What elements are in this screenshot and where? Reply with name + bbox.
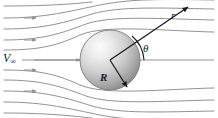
flow-past-sphere-figure: V∞ R θ r [0,0,218,118]
freestream-velocity-label: V∞ [3,52,16,66]
angle-theta-label: θ [143,43,148,54]
figure-canvas [0,0,218,118]
freestream-velocity-subscript: ∞ [10,57,16,66]
radial-coordinate-label: r [171,10,175,21]
streamline-8 [4,91,214,112]
streamline-9 [4,102,214,118]
streamline-2 [4,0,214,18]
sphere-radius-label: R [100,72,107,83]
streamline-1 [4,2,92,6]
streamline-10 [4,113,92,118]
streamline-arrowheads-upper [24,18,36,40]
